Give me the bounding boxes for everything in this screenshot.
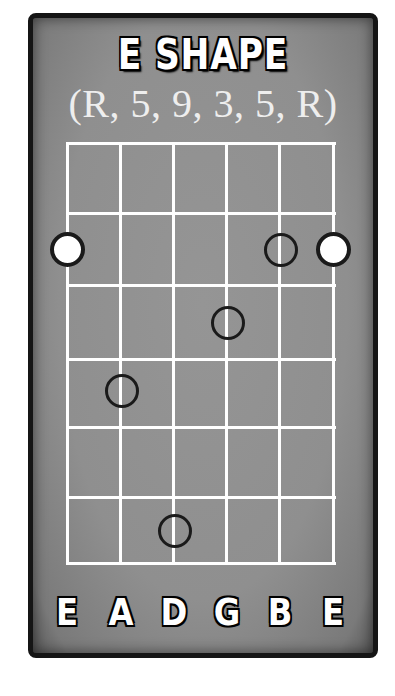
string-line-2 xyxy=(119,142,122,565)
interval-dot-b-string xyxy=(264,233,298,267)
interval-dot-g-string xyxy=(211,306,245,340)
root-dot-low-e xyxy=(50,232,85,267)
chord-shape-card: E SHAPE (R, 5, 9, 3, 5, R) E A D G B E xyxy=(28,13,378,658)
string-label-high-e: E xyxy=(316,588,350,636)
interval-dot-a-string xyxy=(105,374,139,408)
fret-line-4 xyxy=(66,426,336,429)
string-line-3 xyxy=(172,142,175,565)
string-label-g: G xyxy=(210,588,244,636)
fret-line-2 xyxy=(66,284,336,287)
string-label-low-e: E xyxy=(50,588,84,636)
string-label-b: B xyxy=(263,588,297,636)
string-label-a: A xyxy=(104,588,138,636)
fret-line-6 xyxy=(66,562,336,565)
root-dot-high-e xyxy=(316,232,351,267)
fret-line-0 xyxy=(66,142,336,145)
fret-line-5 xyxy=(66,496,336,499)
string-line-5 xyxy=(278,142,281,565)
string-labels: E A D G B E xyxy=(33,588,373,638)
string-line-6 xyxy=(332,142,335,565)
string-label-d: D xyxy=(157,588,191,636)
fretboard-grid xyxy=(66,142,333,565)
interval-dot-d-string xyxy=(158,514,192,548)
fret-line-3 xyxy=(66,358,336,361)
string-line-1 xyxy=(66,142,69,565)
shape-title: E SHAPE xyxy=(64,30,343,80)
fret-line-1 xyxy=(66,212,336,215)
interval-formula: (R, 5, 9, 3, 5, R) xyxy=(33,82,373,126)
string-line-4 xyxy=(225,142,228,565)
